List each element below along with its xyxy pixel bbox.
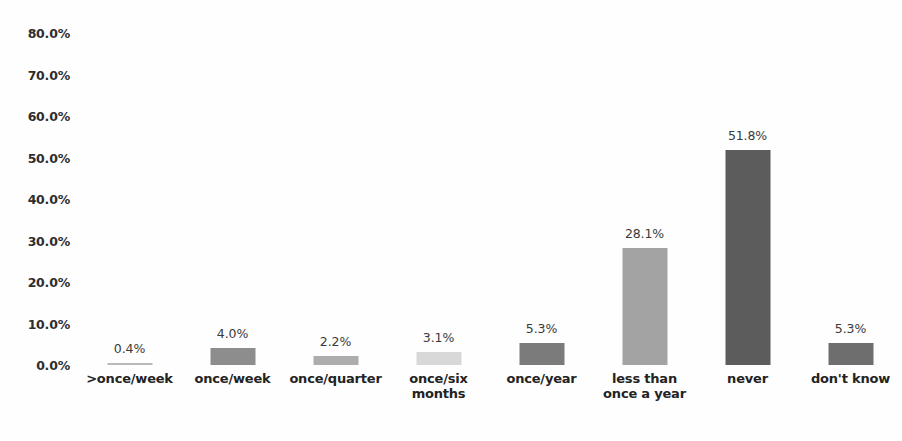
- bar-value-label: 2.2%: [320, 334, 351, 349]
- x-axis-category-label: don't know: [811, 371, 890, 386]
- bar-value-label: 3.1%: [423, 330, 454, 345]
- x-axis-category-line: never: [727, 371, 768, 386]
- x-axis-category-line: once/quarter: [289, 371, 381, 386]
- bar-group: 51.8%never: [696, 0, 799, 441]
- bar-group: 5.3%don't know: [799, 0, 902, 441]
- bar-group: 4.0%once/week: [181, 0, 284, 441]
- x-axis-category-label: less thanonce a year: [603, 371, 686, 401]
- x-axis-category-line: >once/week: [86, 371, 173, 386]
- x-axis-category-label: once/sixmonths: [409, 371, 467, 401]
- y-axis-tick-label: 80.0%: [0, 26, 70, 41]
- y-axis-tick-label: 70.0%: [0, 67, 70, 82]
- x-axis-category-line: don't know: [811, 371, 890, 386]
- bar-group: 5.3%once/year: [490, 0, 593, 441]
- bar[interactable]: [210, 348, 255, 365]
- chart-page: 0.0%10.0%20.0%30.0%40.0%50.0%60.0%70.0%8…: [0, 0, 902, 441]
- bar[interactable]: [622, 248, 667, 365]
- x-axis-category-line: once/year: [506, 371, 576, 386]
- x-axis-category-line: once a year: [603, 386, 686, 401]
- bar[interactable]: [313, 356, 358, 365]
- bars-layer: 0.4%>once/week4.0%once/week2.2%once/quar…: [78, 0, 902, 441]
- bar-group: 2.2%once/quarter: [284, 0, 387, 441]
- x-axis-category-label: once/quarter: [289, 371, 381, 386]
- bar[interactable]: [725, 150, 770, 365]
- bar-value-label: 5.3%: [835, 321, 866, 336]
- bar-value-label: 51.8%: [728, 128, 767, 143]
- y-axis: 0.0%10.0%20.0%30.0%40.0%50.0%60.0%70.0%8…: [0, 0, 78, 441]
- plot-area: 0.4%>once/week4.0%once/week2.2%once/quar…: [78, 0, 902, 441]
- x-axis-category-line: months: [409, 386, 467, 401]
- y-axis-tick-label: 30.0%: [0, 233, 70, 248]
- x-axis-category-line: less than: [612, 371, 677, 386]
- x-axis-category-label: once/week: [195, 371, 271, 386]
- x-axis-category-label: never: [727, 371, 768, 386]
- bar[interactable]: [107, 363, 152, 365]
- y-axis-tick-label: 60.0%: [0, 109, 70, 124]
- bar[interactable]: [828, 343, 873, 365]
- bar-value-label: 0.4%: [114, 341, 145, 356]
- x-axis-category-label: >once/week: [86, 371, 173, 386]
- bar-group: 28.1%less thanonce a year: [593, 0, 696, 441]
- y-axis-tick-label: 20.0%: [0, 275, 70, 290]
- x-axis-category-label: once/year: [506, 371, 576, 386]
- bar[interactable]: [416, 352, 461, 365]
- x-axis-category-line: once/six: [409, 371, 467, 386]
- bar[interactable]: [519, 343, 564, 365]
- y-axis-tick-label: 10.0%: [0, 316, 70, 331]
- bar-value-label: 28.1%: [625, 226, 664, 241]
- bar-group: 3.1%once/sixmonths: [387, 0, 490, 441]
- bar-value-label: 4.0%: [217, 326, 248, 341]
- x-axis-category-line: once/week: [195, 371, 271, 386]
- y-axis-tick-label: 50.0%: [0, 150, 70, 165]
- y-axis-tick-label: 40.0%: [0, 192, 70, 207]
- bar-value-label: 5.3%: [526, 321, 557, 336]
- y-axis-tick-label: 0.0%: [0, 358, 70, 373]
- bar-group: 0.4%>once/week: [78, 0, 181, 441]
